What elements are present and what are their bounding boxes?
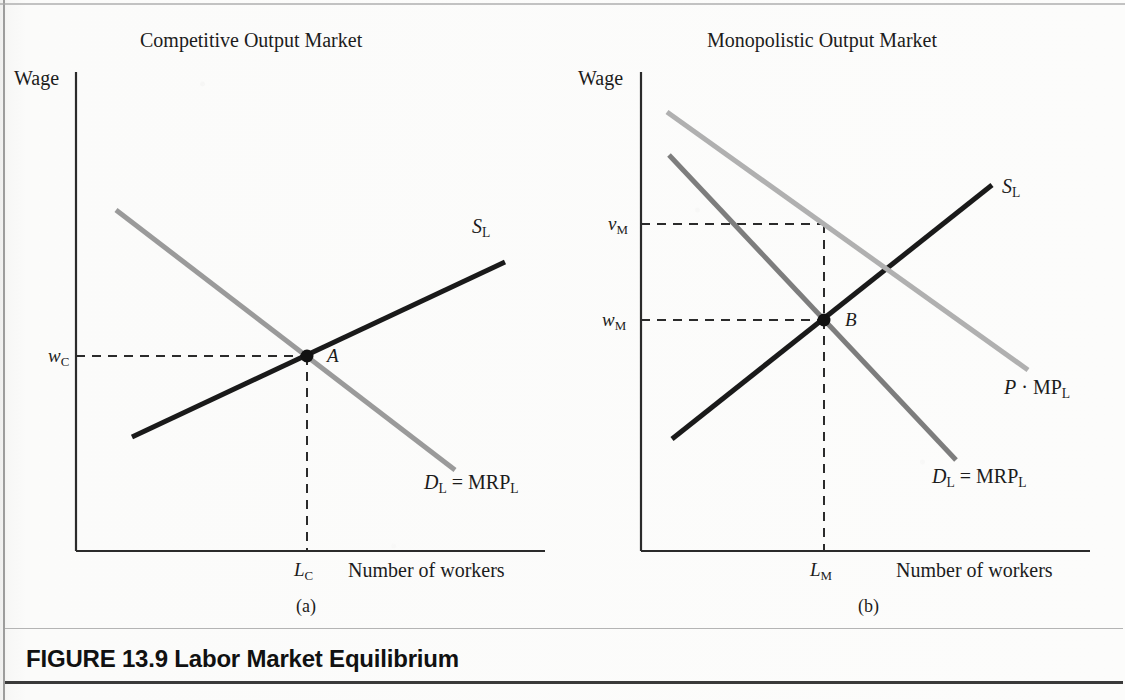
panel-a-demand-label-rest: = MRP <box>447 471 511 493</box>
panel-a-equilibrium-point <box>301 350 314 363</box>
panel-a-wage-tick-sub: C <box>61 354 70 369</box>
panel-a-curve-labor-demand-marginal-revenue-product <box>116 210 455 470</box>
figure-13-9: Competitive Output Market Wage wC A SL D… <box>0 0 1125 700</box>
panel-b-labor-tick-sub: M <box>821 568 832 583</box>
panel-b-wage-tick-sub: M <box>615 318 626 333</box>
panel-a-supply-curve-label: SL <box>472 216 490 239</box>
panel-a-y-axis-label: Wage <box>14 68 59 88</box>
panel-b-equilibrium-label: B <box>845 310 857 329</box>
panel-b-wage-tick-label: wM <box>602 310 626 333</box>
panel-b-demand-label-main: D <box>932 465 946 487</box>
figure-title: Labor Market Equilibrium <box>174 645 459 672</box>
panel-a-supply-label-sub: L <box>482 225 490 240</box>
caption-rule-bottom <box>5 681 1123 684</box>
panel-a-equilibrium-label: A <box>327 346 339 365</box>
panel-a-x-axis-label: Number of workers <box>348 560 505 580</box>
panel-a-labor-tick-main: L <box>294 559 305 580</box>
panel-b-supply-curve-label: SL <box>1002 176 1020 199</box>
panel-a-demand-label-main: D <box>424 471 438 493</box>
panel-a-subcaption: (a) <box>296 597 316 615</box>
panel-b-demand-label-sub: L <box>946 475 954 490</box>
panel-a-labor-tick-sub: C <box>305 568 314 583</box>
panel-b-wage-tick-main: w <box>602 309 615 330</box>
panel-b-equilibrium-point <box>818 314 831 327</box>
panel-b-labor-tick-label: LM <box>810 560 832 583</box>
panel-b-x-axis-label: Number of workers <box>896 560 1053 580</box>
panel-b-subcaption: (b) <box>858 597 879 615</box>
panel-b-title: Monopolistic Output Market <box>707 30 937 50</box>
panel-b-demand-label-rest-sub: L <box>1018 475 1026 490</box>
panel-b-curve-value-of-marginal-product <box>667 112 1028 370</box>
panel-a-demand-label-sub: L <box>438 481 446 496</box>
panel-a-wage-tick-label: wC <box>48 346 69 369</box>
panel-b-demand-label-rest: = MRP <box>955 465 1019 487</box>
panel-b-vmp-label-main: P <box>1004 376 1016 398</box>
caption-rule-top <box>5 628 1123 629</box>
panel-b-curve-labor-demand-marginal-revenue-product <box>669 155 956 460</box>
panel-b-vmp-label-mid: · MP <box>1016 376 1062 398</box>
panel-b-y-axis-label: Wage <box>578 68 623 88</box>
panel-a-supply-label-main: S <box>472 215 482 237</box>
panel-a-title: Competitive Output Market <box>140 30 362 50</box>
panel-a-wage-tick-main: w <box>48 345 61 366</box>
figure-caption: FIGURE 13.9 Labor Market Equilibrium <box>26 645 459 673</box>
panel-a-curve-labor-supply <box>132 262 505 437</box>
panel-b-supply-label-main: S <box>1002 175 1012 197</box>
labor-market-chart <box>0 0 1125 620</box>
panel-b-vmp-label-sub: L <box>1062 386 1070 401</box>
panel-b-value-tick-sub: M <box>616 222 627 237</box>
panel-b-supply-label-sub: L <box>1012 185 1020 200</box>
figure-number: FIGURE 13.9 <box>26 645 168 672</box>
panel-b-value-tick-label: vM <box>608 214 628 237</box>
panel-a-labor-tick-label: LC <box>294 560 313 583</box>
panel-b-labor-tick-main: L <box>810 559 821 580</box>
panel-a-demand-curve-label: DL = MRPL <box>424 472 519 495</box>
panel-a-demand-label-rest-sub: L <box>510 481 518 496</box>
panel-b-value-marginal-product-curve-label: P · MPL <box>1004 377 1070 400</box>
panel-b-demand-curve-label: DL = MRPL <box>932 466 1027 489</box>
